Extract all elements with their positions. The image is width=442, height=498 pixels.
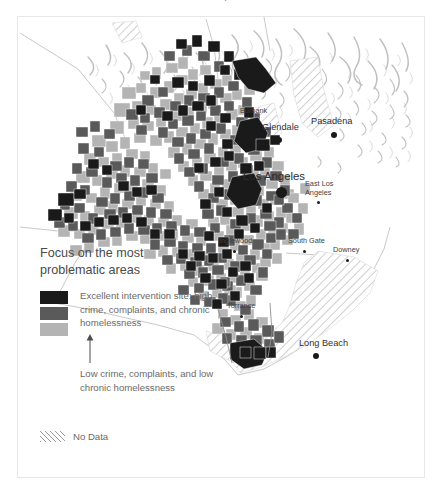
legend-low-label: Low crime, complaints, and low chronic h… [80, 367, 232, 394]
legend-heading: Focus on the most problematic areas [40, 245, 190, 278]
map-panel[interactable]: Burbank Glendale Pasadena Los Angeles Ea… [17, 16, 425, 478]
legend-swatch-medium [40, 307, 68, 320]
legend-swatch-nodata [40, 431, 65, 442]
legend-swatch-stack [40, 291, 68, 339]
legend-color-ramp: Excellent intervention site: high crime,… [40, 291, 230, 363]
legend-swatch-high [40, 291, 68, 304]
page-title: Focus on the most problematic areas [0, 0, 442, 1]
legend-swatch-low [40, 323, 68, 336]
map-legend: Focus on the most problematic areas Exce… [40, 245, 230, 363]
legend-nodata-row: No Data [40, 431, 108, 442]
up-arrow-icon [84, 333, 96, 363]
legend-nodata-label: No Data [73, 431, 108, 442]
legend-high-label: Excellent intervention site: high crime,… [80, 289, 232, 330]
